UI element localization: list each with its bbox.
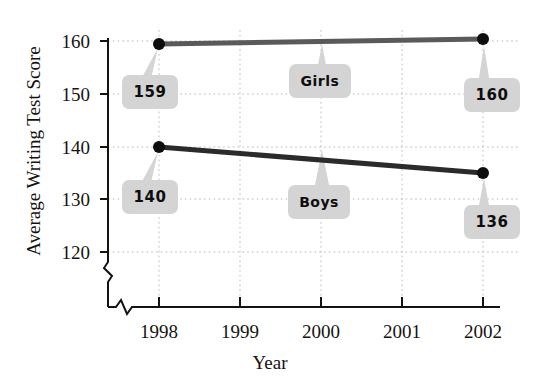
callout-boys-series-label: Boys (288, 185, 350, 219)
chart-figure: Average Writing Test Score 160 150 140 1… (0, 0, 540, 386)
y-axis-spine (104, 38, 112, 307)
marker-boys-2002 (477, 167, 489, 179)
marker-boys-1998 (153, 141, 165, 153)
callout-boys-2002-value: 136 (464, 205, 520, 239)
marker-girls-2002 (477, 33, 489, 45)
plot-area (0, 0, 540, 386)
callout-girls-1998-value: 159 (122, 75, 178, 109)
callout-girls-2002-value: 160 (464, 78, 520, 112)
tail-boys-icon (314, 150, 330, 190)
x-axis-ticks (159, 297, 483, 307)
marker-girls-1998 (153, 38, 165, 50)
x-axis-spine (108, 300, 500, 314)
callout-boys-1998-value: 140 (122, 180, 178, 214)
y-axis-ticks (100, 41, 108, 252)
series-line-girls (159, 39, 483, 44)
callout-girls-series-label: Girls (289, 64, 351, 98)
